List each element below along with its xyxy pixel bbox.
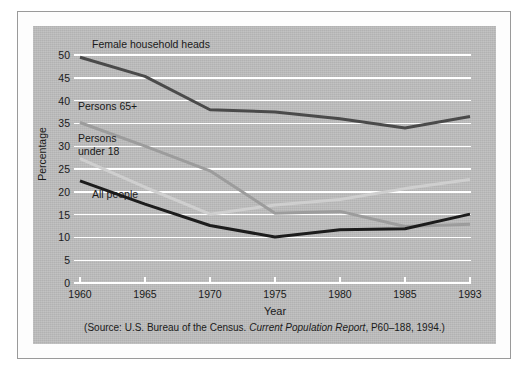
x-axis-tick-label: 1975 — [251, 288, 299, 300]
y-axis-tick-label: 15 — [44, 210, 70, 220]
figure: 05101520253035404550 1960196519701975198… — [0, 0, 529, 371]
y-axis-tick-label: 50 — [44, 50, 70, 60]
x-axis-label: Year — [80, 305, 470, 317]
x-axis-tick-label: 1980 — [316, 288, 364, 300]
source-note: (Source: U.S. Bureau of the Census. Curr… — [33, 322, 496, 333]
y-axis-tick-label: 0 — [44, 278, 70, 288]
x-axis-tick-label: 1970 — [186, 288, 234, 300]
y-axis-tick-label: 10 — [44, 232, 70, 242]
y-axis-tick-label: 45 — [44, 73, 70, 83]
source-prefix: (Source: U.S. Bureau of the Census. — [84, 322, 249, 333]
series-label-female-household-heads: Female household heads — [92, 38, 210, 51]
y-axis-label: Percentage — [36, 104, 48, 204]
x-axis-tick-label: 1985 — [381, 288, 429, 300]
x-axis-tick-label: 1993 — [446, 288, 494, 300]
source-publication-title: Current Population Report — [249, 322, 365, 333]
x-axis-tick-label: 1965 — [121, 288, 169, 300]
series-label-persons-65-plus: Persons 65+ — [78, 100, 137, 113]
x-axis-tick-label: 1960 — [56, 288, 104, 300]
source-suffix: , P60–188, 1994.) — [365, 322, 445, 333]
y-axis-tick-label: 5 — [44, 255, 70, 265]
series-label-all-people: All people — [92, 188, 138, 201]
series-label-persons-under-18: Persons under 18 — [78, 132, 119, 157]
